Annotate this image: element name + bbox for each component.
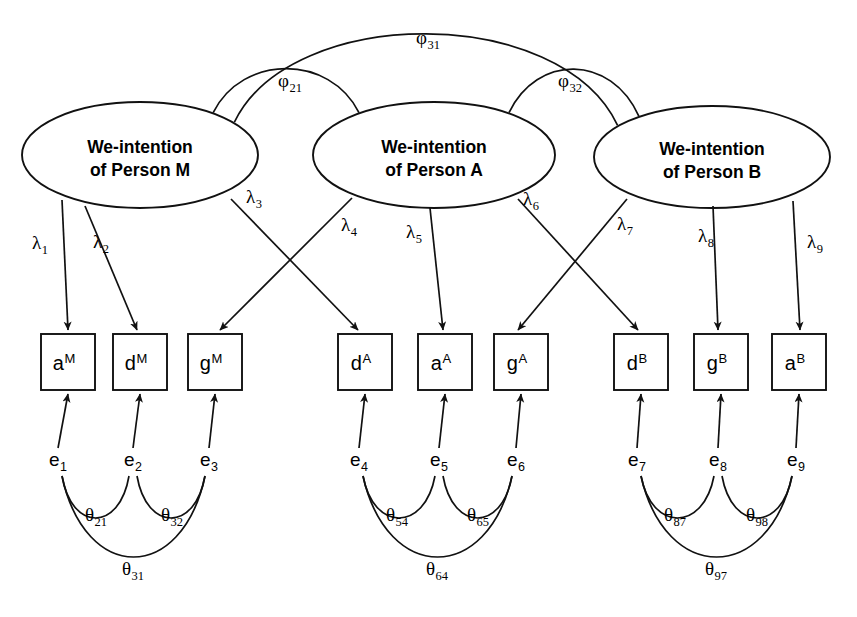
error-covariance-label-T65: θ65 [467,504,489,529]
error-covariance-arc-T65 [443,476,512,518]
error-path-E4 [359,394,365,448]
loading-label-L6: λ6 [523,188,539,213]
loading-label-L8: λ8 [698,225,714,250]
error-covariance-arc-T31 [62,476,205,557]
loading-path-L2 [85,206,137,330]
diagram-canvas: We-intentionof Person MWe-intentionof Pe… [0,0,857,617]
error-path-E2 [133,394,140,448]
error-label-E6: e6 [507,449,525,474]
error-covariance-label-T87: θ87 [664,504,686,529]
loading-path-L5 [430,208,443,330]
error-covariance-arc-T98 [722,476,792,518]
loading-label-L5: λ5 [406,221,422,246]
error-label-E1: e1 [49,449,67,474]
error-path-E7 [637,394,641,448]
error-covariance-label-T21: θ21 [85,504,107,529]
latent-label-line2-F3: of Person B [663,162,761,182]
error-covariance-label-T54: θ54 [386,504,409,529]
error-label-E9: e9 [787,449,805,474]
error-covariance-label-T97: θ97 [705,558,727,583]
error-covariance-arc-T54 [363,476,435,518]
loading-label-L9: λ9 [807,231,823,256]
error-label-E5: e5 [430,449,448,474]
factor-covariance-label-P31: φ31 [416,27,440,52]
latent-label-line2-F2: of Person A [385,160,483,180]
error-label-E4: e4 [350,449,368,474]
loading-path-L8 [713,206,718,330]
loading-path-L7 [518,199,627,330]
error-covariance-label-T98: θ98 [746,504,768,529]
loading-label-L1: λ1 [32,232,48,257]
factor-loading-paths [62,198,800,330]
error-path-E1 [58,394,68,448]
error-covariance-arc-T87 [641,476,714,518]
error-path-E6 [516,394,521,448]
error-covariance-label-T31: θ31 [122,558,144,583]
factor-covariance-label-P32: φ32 [558,70,582,95]
error-covariance-arc-T32 [137,476,205,518]
error-path-E5 [439,394,445,448]
loading-label-L7: λ7 [617,213,633,238]
error-path-E9 [796,394,799,448]
error-covariance-label-T64: θ64 [426,558,449,583]
sem-path-diagram: We-intentionof Person MWe-intentionof Pe… [0,0,857,617]
latent-label-line2-F1: of Person M [90,160,190,180]
error-label-E7: e7 [628,449,646,474]
loading-label-L4: λ4 [341,214,358,239]
error-covariance-label-T32: θ32 [161,504,183,529]
error-paths [58,394,799,448]
error-label-E3: e3 [200,449,218,474]
error-label-E8: e8 [709,449,727,474]
error-covariance-arc-T21 [62,476,129,518]
loading-path-L3 [231,199,358,330]
error-path-E8 [718,394,721,448]
error-label-E2: e2 [124,449,142,474]
loading-label-L2: λ2 [93,231,109,256]
loading-path-L1 [62,200,68,330]
latent-label-line1-F2: We-intention [381,137,487,157]
loading-path-L4 [220,198,352,330]
factor-covariance-label-P21: φ21 [278,70,302,95]
loading-label-L3: λ3 [246,186,262,211]
latent-label-line1-F1: We-intention [87,137,193,157]
error-path-E3 [209,394,215,448]
loading-path-L9 [793,201,800,330]
latent-label-line1-F3: We-intention [659,139,765,159]
